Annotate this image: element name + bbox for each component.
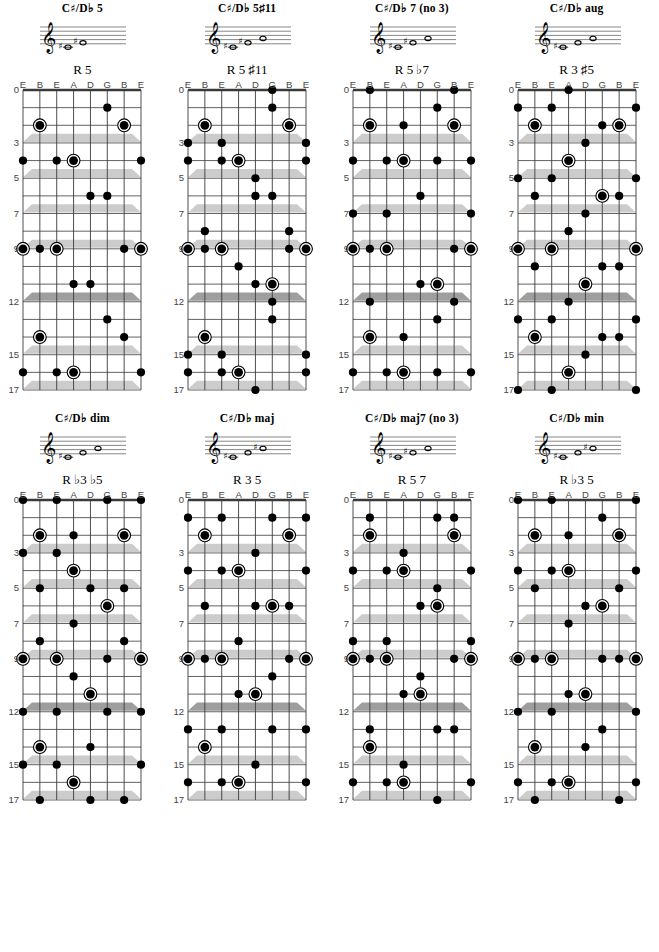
fret-number-label: 3 <box>14 547 19 558</box>
fret-number-label: 12 <box>9 296 19 307</box>
root-note-dot <box>382 654 391 663</box>
chord-tone-dot <box>137 708 145 716</box>
chord-tone-dot <box>235 690 243 698</box>
fret-number-label: 7 <box>344 208 349 219</box>
chord-tone-dot <box>450 655 458 663</box>
fret-inlay-marker <box>188 614 306 622</box>
chord-tone-dot <box>302 351 310 359</box>
string-label: B <box>451 490 457 500</box>
fret-number-label: 0 <box>344 84 349 95</box>
staff-accidental: ♯ <box>59 41 63 51</box>
string-label: A <box>565 490 572 500</box>
string-label: B <box>531 490 537 500</box>
string-label: A <box>236 80 243 90</box>
root-note-dot <box>234 566 243 575</box>
root-note-dot <box>201 743 210 752</box>
chord-card-c-sharp-d-flat-5-sharp-11[interactable]: C♯/D♭ 5♯11𝄞♯♯R 5 ♯11EBEADGBE03579121517 <box>165 0 330 410</box>
fret-inlay-marker <box>23 169 141 177</box>
chord-tone-dot <box>302 156 310 164</box>
fretboard[interactable]: EBEADGBE03579121517 <box>504 490 650 820</box>
chord-tone-dot <box>104 192 112 200</box>
root-note-dot <box>120 531 129 540</box>
fret-number-label: 12 <box>504 296 514 307</box>
chord-formula: R 5 7 <box>398 470 426 490</box>
fret-number-label: 7 <box>179 208 184 219</box>
chord-card-c-sharp-d-flat-maj7-no-3[interactable]: C♯/D♭ maj7 (no 3)𝄞♯♯R 5 7EBEADGBE0357912… <box>330 410 495 820</box>
fretboard[interactable]: EBEADGBE03579121517 <box>9 490 155 820</box>
string-label: B <box>121 490 127 500</box>
root-note-dot <box>530 743 539 752</box>
fret-inlay-marker <box>23 614 141 622</box>
chord-tone-dot <box>120 584 128 592</box>
chord-title-suffix: 5♯11 <box>250 2 276 14</box>
chord-tone-dot <box>53 368 61 376</box>
music-staff: 𝄞♯♯ <box>364 428 460 468</box>
fretboard[interactable]: EBEADGBE03579121517 <box>339 80 485 410</box>
chord-card-c-sharp-d-flat-5[interactable]: C♯/D♭ 5𝄞♯♯R 5EBEADGBE03579121517 <box>0 0 165 410</box>
chord-title-suffix: maj7 (no 3) <box>397 412 459 424</box>
chord-tone-dot <box>433 796 441 804</box>
fretboard[interactable]: EBEADGBE03579121517 <box>174 490 320 820</box>
chord-formula: R 5 <box>73 60 91 80</box>
fret-number-label: 9 <box>508 243 513 254</box>
fret-number-label: 17 <box>339 794 349 805</box>
chord-title: C♯/D♭ 7 (no 3) <box>375 0 449 16</box>
fret-number-label: 0 <box>344 494 349 505</box>
chord-tone-dot <box>285 227 293 235</box>
fretboard[interactable]: EBEADGBE03579121517 <box>339 490 485 820</box>
chord-tone-dot <box>366 725 374 733</box>
chord-tone-dot <box>201 227 209 235</box>
chord-tone-dot <box>615 655 623 663</box>
fret-inlay-marker <box>518 614 636 622</box>
chord-tone-dot <box>251 174 259 182</box>
fretboard[interactable]: EBEADGBE03579121517 <box>174 80 320 410</box>
fret-inlay-marker <box>518 204 636 212</box>
string-label: E <box>20 490 26 500</box>
fret-number-label: 17 <box>9 794 19 805</box>
string-label: E <box>632 490 638 500</box>
chord-tone-dot <box>349 778 357 786</box>
staff-notation: 𝄞♯♯ <box>0 16 165 60</box>
chord-card-c-sharp-d-flat-maj[interactable]: C♯/D♭ maj𝄞♯♯R 3 5EBEADGBE03579121517 <box>165 410 330 820</box>
chord-tone-dot <box>302 725 310 733</box>
chord-tone-dot <box>218 778 226 786</box>
root-note-dot <box>466 654 475 663</box>
fret-number-label: 7 <box>508 618 513 629</box>
chord-tone-dot <box>547 708 555 716</box>
fret-inlay-marker <box>23 346 141 354</box>
fret-number-label: 0 <box>179 494 184 505</box>
fret-inlay-marker <box>23 650 141 658</box>
string-label: B <box>367 80 373 90</box>
fret-number-label: 5 <box>508 582 513 593</box>
chord-tone-dot <box>450 245 458 253</box>
string-label: B <box>202 80 208 90</box>
chord-tone-dot <box>218 566 226 574</box>
chord-card-c-sharp-d-flat-7-no-3[interactable]: C♯/D♭ 7 (no 3)𝄞♯♯R 5 ♭7EBEADGBE035791215… <box>330 0 495 410</box>
fret-number-label: 9 <box>14 653 19 664</box>
string-label: B <box>202 490 208 500</box>
chord-card-c-sharp-d-flat-dim[interactable]: C♯/D♭ dim𝄞♯R ♭3 ♭5EBEADGBE03579121517 <box>0 410 165 820</box>
fretboard[interactable]: EBEADGBE03579121517 <box>9 80 155 410</box>
string-label: E <box>138 490 144 500</box>
chord-tone-dot <box>581 209 589 217</box>
chord-tone-dot <box>632 708 640 716</box>
string-label: E <box>548 490 554 500</box>
string-label: E <box>185 490 191 500</box>
fret-inlay-marker <box>518 756 636 764</box>
chord-tone-dot <box>433 368 441 376</box>
chord-card-c-sharp-d-flat-min[interactable]: C♯/D♭ min𝄞♯♯R ♭3 5EBEADGBE03579121517 <box>494 410 659 820</box>
chord-card-c-sharp-d-flat-aug[interactable]: C♯/D♭ aug𝄞♯R 3 ♯5EBEADGBE03579121517 <box>494 0 659 410</box>
chord-tone-dot <box>302 514 310 522</box>
chord-tone-dot <box>416 672 424 680</box>
chord-tone-dot <box>36 796 44 804</box>
fret-number-label: 15 <box>339 759 349 770</box>
staff-accidental: ♯ <box>553 451 557 461</box>
chord-title: C♯/D♭ maj7 (no 3) <box>365 410 459 426</box>
fret-inlay-marker <box>188 791 306 799</box>
string-label: E <box>383 80 389 90</box>
fret-number-label: 12 <box>339 706 349 717</box>
fretboard[interactable]: EBEADGBE03579121517 <box>504 80 650 410</box>
fret-inlay-marker <box>518 240 636 248</box>
string-label: B <box>286 80 292 90</box>
chord-formula: R 5 ♭7 <box>395 60 429 80</box>
